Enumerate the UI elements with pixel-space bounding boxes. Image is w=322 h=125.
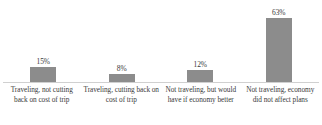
category-label-slot: Not traveling, but would have if economy… — [161, 85, 241, 125]
bar-group: 15% — [4, 0, 83, 82]
bar-group: 12% — [161, 0, 240, 82]
bar — [109, 74, 135, 82]
bar — [266, 18, 292, 82]
bar — [30, 67, 56, 82]
bar-value-label: 63% — [272, 8, 285, 17]
category-label-slot: Not traveling, economy did not affect pl… — [241, 85, 321, 125]
category-label: Traveling, cutting back on cost of trip — [84, 85, 160, 104]
bar-group: 8% — [83, 0, 162, 82]
bar-group: 63% — [240, 0, 319, 82]
category-label-slot: Traveling, not cutting back on cost of t… — [2, 85, 82, 125]
bar-value-label: 8% — [117, 64, 127, 73]
x-axis-baseline — [3, 82, 319, 83]
bar — [187, 70, 213, 82]
bar-chart: 15% 8% 12% 63% Traveling, not cutting ba… — [0, 0, 322, 125]
category-label: Traveling, not cutting back on cost of t… — [4, 85, 80, 104]
category-axis-labels: Traveling, not cutting back on cost of t… — [0, 85, 322, 125]
category-label: Not traveling, but would have if economy… — [163, 85, 239, 104]
category-label-slot: Traveling, cutting back on cost of trip — [82, 85, 162, 125]
plot-area: 15% 8% 12% 63% — [0, 0, 322, 82]
bar-value-label: 12% — [194, 60, 207, 69]
category-label: Not traveling, economy did not affect pl… — [243, 85, 319, 104]
bar-value-label: 15% — [37, 57, 50, 66]
